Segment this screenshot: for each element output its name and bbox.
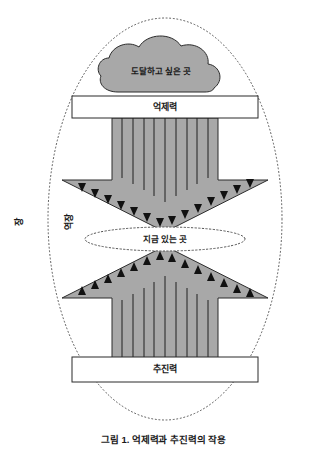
diagram-canvas: 도달하고 싶은 곳 억제력 지금 있는 곳 추진력 장 역장 <box>0 0 327 466</box>
goal-cloud: 도달하고 싶은 곳 <box>98 36 220 92</box>
outer-field-label: 장 <box>13 217 24 226</box>
current-state-ellipse: 지금 있는 곳 <box>85 227 245 251</box>
inner-field-label: 역장 <box>63 213 74 230</box>
restraining-force-arrow <box>62 118 268 232</box>
restraining-force-box: 억제력 <box>72 96 258 118</box>
figure-caption: 그림 1. 억제력과 추진력의 작용 <box>0 432 327 446</box>
goal-cloud-label: 도달하고 싶은 곳 <box>131 66 192 76</box>
current-state-label: 지금 있는 곳 <box>143 234 188 244</box>
driving-force-box-label: 추진력 <box>153 363 177 374</box>
restraining-force-box-label: 억제력 <box>153 101 177 112</box>
force-field-diagram: 도달하고 싶은 곳 억제력 지금 있는 곳 추진력 장 역장 그림 1. 억제력… <box>0 0 327 466</box>
driving-force-box: 추진력 <box>72 357 258 382</box>
driving-force-arrow <box>62 246 268 358</box>
